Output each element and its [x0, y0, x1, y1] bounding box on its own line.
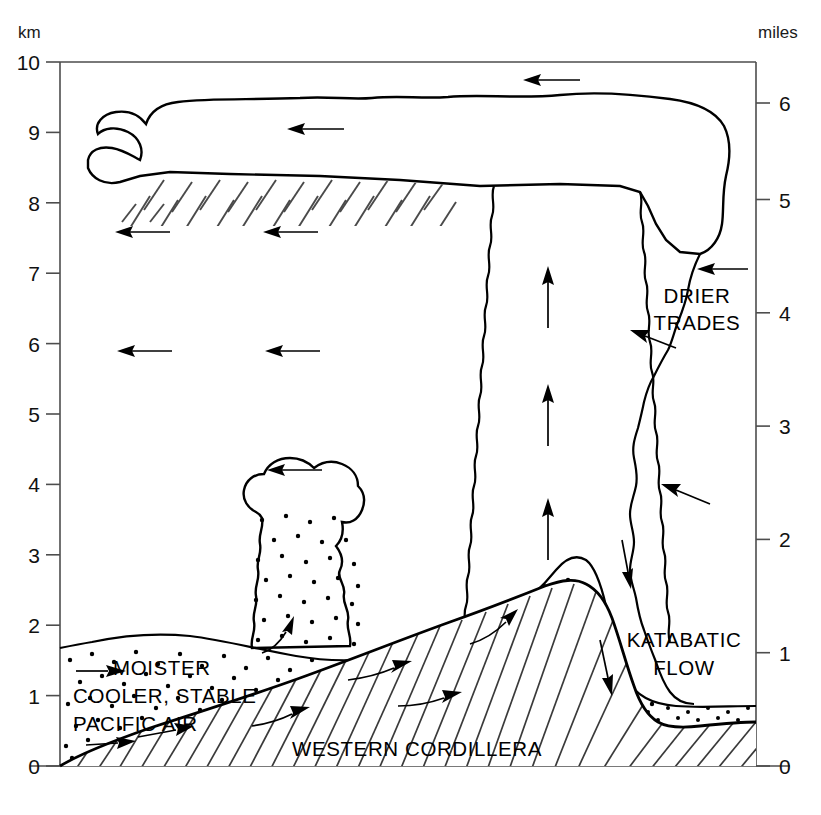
pacific-air-line-1: MOISTER — [113, 656, 211, 679]
diagram-canvas: km miles 10 9 8 7 6 5 4 — [0, 0, 821, 815]
left-axis-ticks — [46, 62, 60, 766]
left-tick-5: 5 — [28, 403, 40, 426]
drier-trades-line-1: DRIER — [664, 284, 731, 307]
arrow-updraft-1 — [542, 266, 554, 328]
left-tick-4: 4 — [28, 473, 40, 496]
left-tick-3: 3 — [28, 544, 40, 567]
cumulus-turret — [244, 458, 364, 648]
arrow-upper-inflow-1 — [523, 74, 580, 86]
left-tick-10: 10 — [17, 51, 40, 74]
katabatic-line-1: KATABATIC — [627, 628, 742, 651]
drier-trades-label: DRIER TRADES — [654, 284, 741, 334]
arrow-midlevel-westerly-1 — [115, 226, 170, 238]
left-axis-tick-labels: 10 9 8 7 6 5 4 3 2 1 0 — [17, 51, 41, 778]
left-tick-9: 9 — [28, 121, 40, 144]
katabatic-flow-label: KATABATIC FLOW — [627, 628, 742, 679]
left-tick-2: 2 — [28, 614, 40, 637]
convective-column-left-wall — [464, 186, 494, 636]
left-tick-7: 7 — [28, 262, 40, 285]
left-axis-unit-label: km — [18, 23, 41, 42]
left-tick-1: 1 — [28, 685, 40, 708]
upper-cloud-deck — [88, 93, 730, 254]
left-tick-6: 6 — [28, 333, 40, 356]
right-axis-tick-labels: 0 1 2 3 4 5 6 — [779, 92, 791, 778]
right-axis-ticks — [756, 103, 770, 766]
right-tick-5: 5 — [779, 189, 791, 212]
right-tick-4: 4 — [779, 302, 791, 325]
left-tick-8: 8 — [28, 192, 40, 215]
right-tick-6: 6 — [779, 92, 791, 115]
cross-section-figure: km miles 10 9 8 7 6 5 4 — [0, 0, 821, 815]
katabatic-line-2: FLOW — [653, 656, 715, 679]
arrow-midlevel-westerly-3 — [117, 345, 172, 357]
left-tick-0: 0 — [28, 755, 40, 778]
arrow-updraft-2 — [542, 384, 554, 446]
drier-trades-line-2: TRADES — [654, 311, 741, 334]
right-tick-3: 3 — [779, 415, 791, 438]
right-tick-1: 1 — [779, 642, 791, 665]
arrow-midlevel-westerly-4 — [265, 345, 320, 357]
cordillera-label: WESTERN CORDILLERA — [292, 737, 542, 760]
pacific-air-line-3: PACIFIC AIR — [73, 712, 198, 735]
arrow-trade-inflow-1 — [697, 263, 748, 275]
precipitation-hatching — [122, 180, 456, 232]
arrow-updraft-3 — [542, 498, 554, 560]
right-tick-2: 2 — [779, 528, 791, 551]
right-axis-unit-label: miles — [758, 23, 798, 42]
right-tick-0: 0 — [779, 755, 791, 778]
arrow-trade-inflow-3 — [661, 484, 710, 504]
lee-layer-stipple — [646, 706, 750, 722]
pacific-air-line-2: COOLER, STABLE — [73, 684, 256, 707]
arrow-midlevel-westerly-2 — [263, 226, 318, 238]
convective-column-right-wall — [640, 192, 670, 642]
